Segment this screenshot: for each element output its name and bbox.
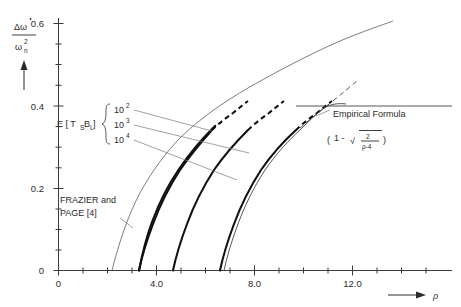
- empirical-formula-paren-open: (: [327, 135, 330, 145]
- x-tick-label-2: 8.0: [248, 278, 261, 289]
- legend-item-10e4-exponent: 4: [126, 132, 130, 139]
- empirical-formula-one-minus: 1 -: [334, 133, 345, 143]
- x-tick-label-3: 12.0: [343, 278, 362, 289]
- curve-10e3-dashed-extension: [248, 101, 284, 130]
- y-tick-label-2: 0.2: [31, 183, 44, 194]
- y-tick-label-3: 0: [39, 265, 44, 276]
- y-tick-label-1: 0.4: [31, 101, 44, 112]
- x-axis-variable: ρ: [432, 291, 438, 301]
- curve-10e2: [139, 126, 215, 271]
- curve-empirical-dashed-branch: [300, 80, 358, 128]
- legend-label-main: E [ T: [57, 119, 76, 129]
- y-tick-label-0: 0.6: [31, 18, 44, 29]
- frazier-page-leader: [120, 218, 133, 228]
- chart-figure: 0.6 0.4 0.2 0 0 4.0 8.0 12.0 Δω ω n 2 ρ: [0, 0, 461, 307]
- frazier-page-line2: PAGE [4]: [60, 208, 97, 218]
- y-axis-label-denominator: ω: [15, 42, 22, 52]
- curve-10e2-body: [139, 130, 212, 271]
- y-axis-arrow-head: [21, 60, 28, 70]
- frazier-page-annotation: FRAZIER and PAGE [4]: [60, 195, 133, 228]
- legend-label-end: ]: [93, 119, 96, 129]
- legend-item-10e3: 10: [114, 120, 124, 130]
- empirical-formula-radical: √: [350, 136, 355, 146]
- frazier-page-line1: FRAZIER and: [60, 195, 116, 205]
- legend-item-10e2-exponent: 2: [126, 102, 130, 109]
- curve-10e3: [173, 130, 248, 271]
- x-axis-arrow-head: [416, 292, 426, 299]
- x-tick-label-0: 0: [56, 278, 61, 289]
- empirical-formula-paren-close: ): [383, 135, 386, 145]
- curve-10e4-dashed-extension: [296, 101, 332, 130]
- legend-brace: [102, 104, 110, 144]
- empirical-formula-denominator: ρ-4: [362, 143, 372, 151]
- legend-group: E [ T S B L ] 10 2 10 3 10 4: [57, 102, 249, 180]
- x-tick-label-1: 4.0: [150, 278, 163, 289]
- y-axis-label-denominator-sub: n: [24, 47, 28, 54]
- x-axis-label: ρ: [388, 291, 438, 301]
- y-axis-label-denominator-sup: 2: [24, 38, 28, 45]
- legend-item-10e4: 10: [114, 135, 124, 145]
- y-axis-label-numerator: Δω: [14, 22, 27, 32]
- empirical-formula-title: Empirical Formula: [333, 109, 406, 119]
- curve-empirical-rise: [224, 104, 346, 271]
- curve-10e4: [220, 130, 296, 271]
- omega-dot-accent: [30, 18, 32, 20]
- empirical-formula-annotation: Empirical Formula ( 1 - √ 2 ρ-4 ): [316, 109, 406, 151]
- legend-item-10e3-exponent: 3: [126, 117, 130, 124]
- legend-item-10e2: 10: [114, 105, 124, 115]
- chart-svg: 0.6 0.4 0.2 0 0 4.0 8.0 12.0 Δω ω n 2 ρ: [0, 0, 461, 307]
- curve-10e2-dashed-extension: [212, 101, 248, 130]
- empirical-formula-numerator: 2: [366, 133, 370, 140]
- legend-leader-10e3: [134, 125, 249, 153]
